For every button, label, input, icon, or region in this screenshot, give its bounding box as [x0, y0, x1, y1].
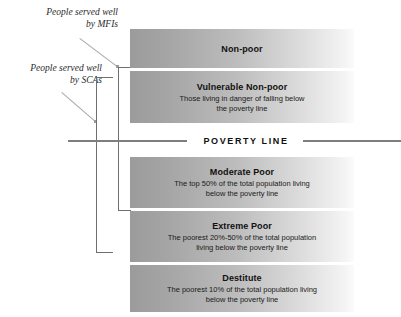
band-non-poor: Non-poor: [130, 29, 354, 68]
poverty-line-rule-right: [303, 140, 401, 142]
band-extreme-poor: Extreme Poor The poorest 20%-50% of the …: [130, 211, 354, 262]
leader-line-sca: [61, 92, 95, 122]
bracket-sca-top-arm: [96, 77, 113, 78]
band-moderate-desc-line2: below the poverty line: [206, 189, 279, 198]
poverty-line-divider: POVERTY LINE: [68, 133, 401, 149]
band-moderate-poor-desc: The top 50% of the total population livi…: [174, 179, 310, 198]
band-moderate-poor-title: Moderate Poor: [210, 166, 274, 178]
band-extreme-desc-line2: living below the poverty line: [196, 243, 288, 252]
poverty-line-rule-left: [68, 140, 187, 142]
annotation-mfi-line2: by MFIs: [18, 18, 118, 30]
band-destitute: Destitute The poorest 10% of the total p…: [130, 265, 354, 312]
annotation-label-mfi: People served well by MFIs: [18, 6, 118, 30]
band-vulnerable-non-poor-desc: Those living in danger of falling below …: [179, 94, 304, 113]
band-vulnerable-non-poor: Vulnerable Non-poor Those living in dang…: [130, 71, 354, 123]
poverty-line-label: POVERTY LINE: [187, 133, 305, 149]
bracket-sca-spine: [96, 77, 97, 253]
band-moderate-poor: Moderate Poor The top 50% of the total p…: [130, 157, 354, 208]
band-extreme-poor-desc: The poorest 20%-50% of the total populat…: [168, 233, 316, 252]
band-vulnerable-desc-line1: Those living in danger of falling below: [179, 94, 304, 103]
band-extreme-poor-title: Extreme Poor: [212, 220, 272, 232]
annotation-sca-line1: People served well: [2, 62, 102, 74]
annotation-label-sca: People served well by SCAs: [2, 62, 102, 86]
band-vulnerable-desc-line2: the poverty line: [217, 104, 268, 113]
annotation-mfi-line1: People served well: [18, 6, 118, 18]
band-destitute-title: Destitute: [222, 272, 261, 284]
annotation-sca-line2: by SCAs: [2, 74, 102, 86]
band-moderate-desc-line1: The top 50% of the total population livi…: [174, 179, 310, 188]
band-destitute-desc-line1: The poorest 10% of the total population …: [167, 285, 317, 294]
poverty-segmentation-diagram: People served well by MFIs People served…: [0, 0, 401, 317]
bracket-sca-bottom-arm: [96, 252, 113, 253]
band-destitute-desc-line2: below the poverty line: [206, 295, 279, 304]
band-destitute-desc: The poorest 10% of the total population …: [167, 285, 317, 304]
band-extreme-desc-line1: The poorest 20%-50% of the total populat…: [168, 233, 316, 242]
band-non-poor-title: Non-poor: [221, 43, 262, 55]
band-vulnerable-non-poor-title: Vulnerable Non-poor: [197, 81, 288, 93]
